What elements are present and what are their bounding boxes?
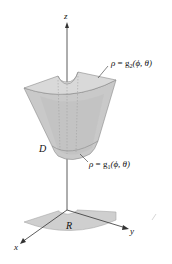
solid-region-diagram: z x y ρ = g2(ϕ, θ) ρ = g1(ϕ, θ) D R xyxy=(0,0,172,264)
y-axis-arrow-icon xyxy=(122,225,129,230)
y-axis-label: y xyxy=(129,226,134,236)
x-axis-arrow-icon xyxy=(20,238,26,244)
stray-mark xyxy=(152,214,156,220)
inner-surface-label: ρ = g1(ϕ, θ) xyxy=(88,159,130,170)
x-axis-label: x xyxy=(13,242,18,252)
z-axis-arrow-icon xyxy=(65,22,69,28)
solid-d xyxy=(24,72,116,160)
solid-d-label: D xyxy=(38,143,47,154)
leader-line-g2 xyxy=(98,66,108,78)
z-axis-label: z xyxy=(63,11,68,21)
outer-surface-label: ρ = g2(ϕ, θ) xyxy=(110,58,152,69)
region-r-label: R xyxy=(65,220,72,231)
